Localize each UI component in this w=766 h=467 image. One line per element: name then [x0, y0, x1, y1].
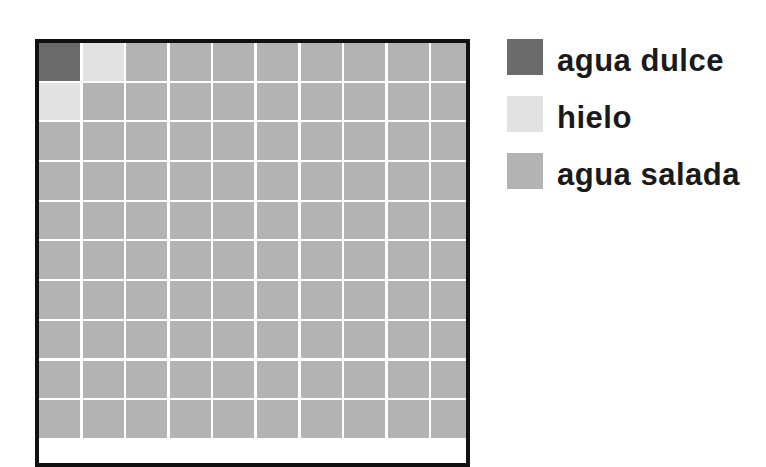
waffle-cell-agua-salada [257, 281, 298, 319]
waffle-cell-agua-salada [344, 281, 385, 319]
waffle-cell-agua-salada [257, 162, 298, 200]
waffle-cell-agua-salada [83, 281, 124, 319]
waffle-cell-agua-salada [301, 400, 342, 438]
waffle-cell-agua-salada [213, 241, 254, 279]
waffle-cell-agua-salada [126, 162, 167, 200]
waffle-cell-agua-salada [344, 43, 385, 81]
waffle-cell-agua-salada [431, 361, 470, 399]
waffle-cell-agua-salada [388, 241, 429, 279]
waffle-cell-agua-salada [257, 202, 298, 240]
waffle-cell-agua-salada [170, 162, 211, 200]
waffle-cell-agua-salada [39, 202, 80, 240]
waffle-cell-agua-salada [83, 162, 124, 200]
waffle-cell-agua-salada [213, 202, 254, 240]
waffle-cell-agua-salada [388, 122, 429, 160]
waffle-cell-agua-salada [170, 241, 211, 279]
waffle-cell-agua-salada [431, 83, 470, 121]
waffle-cell-agua-salada [344, 83, 385, 121]
waffle-cell-agua-salada [213, 43, 254, 81]
waffle-cell-agua-salada [83, 122, 124, 160]
waffle-cell-agua-salada [83, 321, 124, 359]
waffle-cell-agua-salada [431, 321, 470, 359]
waffle-cell-agua-salada [170, 321, 211, 359]
waffle-cell-agua-salada [170, 400, 211, 438]
waffle-cell-agua-salada [39, 281, 80, 319]
waffle-cell-agua-salada [213, 281, 254, 319]
waffle-cell-agua-salada [39, 361, 80, 399]
waffle-cell-agua-salada [126, 400, 167, 438]
waffle-cell-agua-salada [257, 83, 298, 121]
waffle-cell-agua-salada [83, 83, 124, 121]
waffle-cell-agua-salada [170, 361, 211, 399]
waffle-cell-agua-salada [388, 400, 429, 438]
waffle-cell-agua-salada [301, 43, 342, 81]
waffle-cell-agua-salada [431, 281, 470, 319]
waffle-cell-agua-salada [388, 361, 429, 399]
waffle-cell-agua-salada [83, 202, 124, 240]
waffle-chart-frame [35, 39, 470, 467]
waffle-cell-agua-salada [431, 202, 470, 240]
waffle-cell-agua-salada [39, 162, 80, 200]
waffle-cell-agua-salada [257, 400, 298, 438]
waffle-cell-agua-salada [431, 43, 470, 81]
legend-item-agua-dulce: agua dulce [507, 39, 766, 75]
legend-item-agua-salada: agua salada [507, 153, 766, 189]
waffle-cell-agua-salada [257, 241, 298, 279]
waffle-cell-agua-salada [344, 202, 385, 240]
waffle-cell-agua-salada [213, 321, 254, 359]
legend-item-hielo: hielo [507, 96, 766, 132]
waffle-cell-agua-salada [126, 83, 167, 121]
waffle-cell-agua-salada [170, 281, 211, 319]
waffle-cell-agua-salada [213, 122, 254, 160]
waffle-cell-agua-salada [213, 83, 254, 121]
waffle-cell-agua-salada [301, 241, 342, 279]
waffle-cell-agua-salada [431, 400, 470, 438]
waffle-cell-agua-salada [301, 281, 342, 319]
waffle-cell-agua-salada [344, 241, 385, 279]
waffle-cell-agua-salada [301, 202, 342, 240]
legend-swatch-agua-salada [507, 153, 543, 189]
waffle-cell-agua-salada [39, 122, 80, 160]
waffle-cell-agua-salada [344, 122, 385, 160]
waffle-cell-agua-salada [213, 162, 254, 200]
waffle-cell-agua-salada [431, 241, 470, 279]
waffle-cell-agua-salada [126, 122, 167, 160]
waffle-cell-agua-salada [388, 43, 429, 81]
waffle-cell-agua-salada [301, 321, 342, 359]
waffle-cell-agua-salada [257, 43, 298, 81]
waffle-cell-agua-salada [344, 361, 385, 399]
waffle-cell-agua-salada [388, 202, 429, 240]
waffle-cell-agua-salada [126, 321, 167, 359]
waffle-cell-agua-salada [126, 241, 167, 279]
waffle-cell-agua-salada [301, 361, 342, 399]
waffle-cell-agua-salada [388, 321, 429, 359]
waffle-cell-agua-salada [344, 321, 385, 359]
waffle-cell-agua-salada [126, 281, 167, 319]
waffle-cell-agua-salada [301, 83, 342, 121]
waffle-cell-agua-salada [344, 400, 385, 438]
waffle-cell-agua-salada [301, 162, 342, 200]
waffle-grid [39, 43, 470, 438]
waffle-cell-agua-salada [126, 361, 167, 399]
waffle-cell-agua-salada [431, 122, 470, 160]
waffle-cell-agua-salada [170, 83, 211, 121]
waffle-cell-agua-salada [213, 400, 254, 438]
waffle-cell-agua-salada [39, 321, 80, 359]
waffle-cell-agua-salada [83, 241, 124, 279]
waffle-cell-agua-salada [83, 361, 124, 399]
waffle-cell-agua-salada [39, 241, 80, 279]
waffle-cell-agua-salada [170, 43, 211, 81]
waffle-cell-agua-dulce [39, 43, 80, 81]
waffle-cell-agua-salada [126, 202, 167, 240]
legend-label-agua-salada: agua salada [557, 157, 740, 193]
waffle-cell-hielo [83, 43, 124, 81]
waffle-cell-agua-salada [257, 361, 298, 399]
waffle-cell-agua-salada [388, 162, 429, 200]
waffle-cell-agua-salada [170, 122, 211, 160]
waffle-cell-agua-salada [301, 122, 342, 160]
legend-label-hielo: hielo [557, 100, 632, 136]
waffle-cell-agua-salada [257, 321, 298, 359]
legend-swatch-hielo [507, 96, 543, 132]
legend-swatch-agua-dulce [507, 39, 543, 75]
waffle-cell-agua-salada [170, 202, 211, 240]
